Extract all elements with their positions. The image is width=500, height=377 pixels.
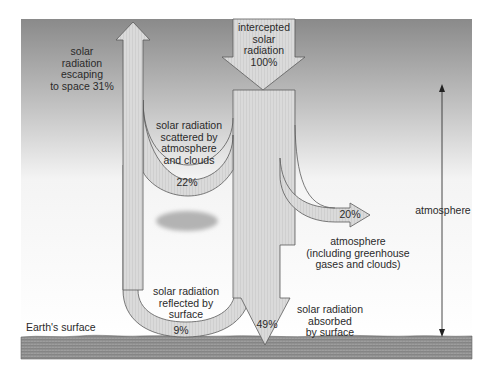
reflected-label: solar radiation reflected by surface [140, 286, 232, 321]
intercepted-label: intercepted solar radiation 100% [232, 22, 296, 68]
solar-radiation-diagram: intercepted solar radiation 100% solar r… [0, 0, 500, 377]
surface-absorbed-label: solar radiation absorbed by surface [288, 304, 372, 339]
scattered-label: solar radiation scattered by atmosphere … [146, 120, 232, 166]
earth-surface-ground [21, 335, 472, 359]
cloud-icon [156, 211, 218, 231]
escaping-label: solar radiation escaping to space 31% [44, 46, 120, 92]
reflected-percent: 9% [169, 324, 193, 336]
atmosphere-description-label: atmosphere (including greenhouse gases a… [298, 236, 418, 271]
atmosphere-extent-label: atmosphere [410, 205, 476, 217]
scattered-percent: 22% [172, 176, 202, 188]
atmosphere-absorbed-percent: 20% [338, 208, 362, 220]
earth-surface-label: Earth's surface [26, 322, 116, 334]
surface-absorbed-percent: 49% [252, 318, 282, 330]
